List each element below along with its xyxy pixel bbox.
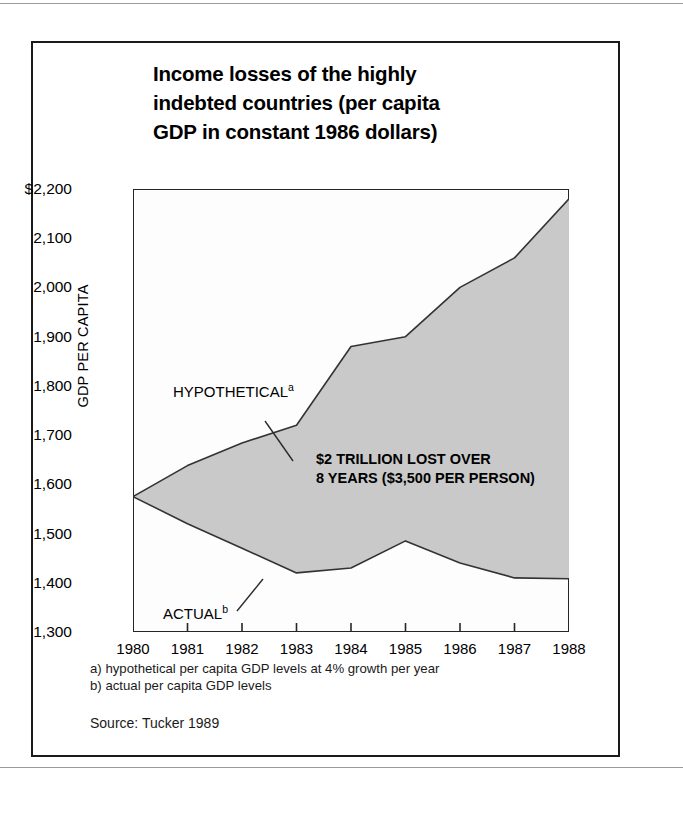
actual-series-label: ACTUALb (163, 603, 228, 622)
actual-leader-line (237, 579, 263, 611)
actual-label-footnote-marker: b (222, 603, 228, 615)
figure-footnotes: a) hypothetical per capita GDP levels at… (90, 660, 439, 694)
actual-label-text: ACTUAL (163, 605, 222, 622)
x-axis-tick-marks (188, 623, 515, 632)
loss-callout-line-1: $2 TRILLION LOST OVER (316, 450, 535, 469)
y-axis-title: GDP PER CAPITA (75, 236, 91, 456)
figure-title-line-3: GDP in constant 1986 dollars) (153, 117, 593, 146)
x-axis-tick-label: 1980 (116, 640, 149, 657)
y-axis-tick-label: 1,600 (0, 475, 72, 493)
figure-title-line-2: indebted countries (per capita (153, 88, 593, 117)
x-axis-tick-label: 1981 (171, 640, 204, 657)
chart-svg (133, 189, 569, 632)
figure-source: Source: Tucker 1989 (90, 715, 219, 731)
page-top-rule (0, 3, 683, 4)
page-bottom-rule (0, 767, 683, 768)
y-axis-tick-label: 2,100 (0, 229, 72, 247)
y-axis-tick-label: 1,300 (0, 623, 72, 641)
y-axis-tick-label: 1,400 (0, 574, 72, 592)
y-axis-tick-label: 1,500 (0, 525, 72, 543)
figure-container: Income losses of the highly indebted cou… (31, 41, 620, 757)
y-axis-tick-label: 1,900 (0, 328, 72, 346)
figure-title: Income losses of the highly indebted cou… (153, 59, 593, 146)
hypothetical-label-footnote-marker: a (288, 381, 294, 393)
hypothetical-label-text: HYPOTHETICAL (173, 383, 288, 400)
hypothetical-series-label: HYPOTHETICALa (173, 381, 294, 400)
y-axis-tick-label: $2,200 (0, 180, 72, 198)
plot-area: HYPOTHETICALa ACTUALb $2 TRILLION LOST O… (133, 189, 569, 632)
x-axis-tick-label: 1986 (443, 640, 476, 657)
y-axis-tick-label: 1,800 (0, 377, 72, 395)
footnote-b: b) actual per capita GDP levels (90, 677, 439, 694)
figure-title-line-1: Income losses of the highly (153, 59, 593, 88)
x-axis-tick-label: 1984 (334, 640, 367, 657)
x-axis-tick-label: 1982 (225, 640, 258, 657)
x-axis-tick-label: 1983 (280, 640, 313, 657)
loss-callout: $2 TRILLION LOST OVER 8 YEARS ($3,500 PE… (316, 450, 535, 488)
x-axis-tick-label: 1985 (389, 640, 422, 657)
page-root: Income losses of the highly indebted cou… (0, 0, 683, 816)
loss-callout-line-2: 8 YEARS ($3,500 PER PERSON) (316, 469, 535, 488)
x-axis-tick-label: 1988 (552, 640, 585, 657)
y-axis-tick-label: 1,700 (0, 426, 72, 444)
x-axis-tick-label: 1987 (498, 640, 531, 657)
footnote-a: a) hypothetical per capita GDP levels at… (90, 660, 439, 677)
y-axis-tick-label: 2,000 (0, 278, 72, 296)
